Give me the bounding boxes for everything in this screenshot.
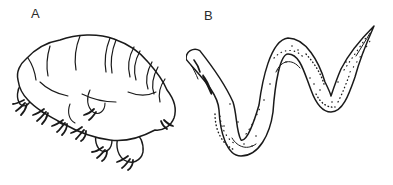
- nematode-illustration: [186, 18, 388, 168]
- panel-a-label: A: [31, 7, 40, 20]
- tardigrade-body: [13, 35, 175, 170]
- nematode-body: [186, 26, 374, 156]
- nematode-outline: [186, 26, 374, 156]
- two-panel-figure: A B: [0, 0, 393, 185]
- tardigrade-illustration: [12, 30, 184, 175]
- tardigrade-trunk: [17, 35, 175, 141]
